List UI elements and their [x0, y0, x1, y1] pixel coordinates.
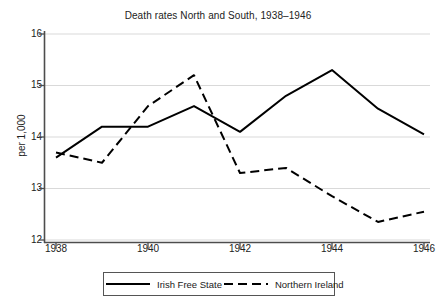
plot-area [0, 0, 436, 307]
data-series-group [56, 70, 424, 222]
legend-item-northern-ireland[interactable]: Northern Ireland [222, 279, 344, 290]
gridlines [45, 34, 430, 240]
series-line-irish-free-state [56, 70, 424, 158]
series-line-northern-ireland [56, 75, 424, 222]
legend-label: Northern Ireland [275, 279, 344, 290]
chart-container: Death rates North and South, 1938–1946 p… [0, 0, 436, 307]
legend-swatch-solid-icon [104, 279, 152, 289]
legend-item-irish-free-state[interactable]: Irish Free State [104, 279, 222, 290]
legend-label: Irish Free State [157, 279, 222, 290]
legend-swatch-dashed-icon [222, 279, 270, 289]
chart-legend: Irish Free State Northern Ireland [103, 272, 335, 296]
x-axis-ticks [56, 243, 424, 249]
